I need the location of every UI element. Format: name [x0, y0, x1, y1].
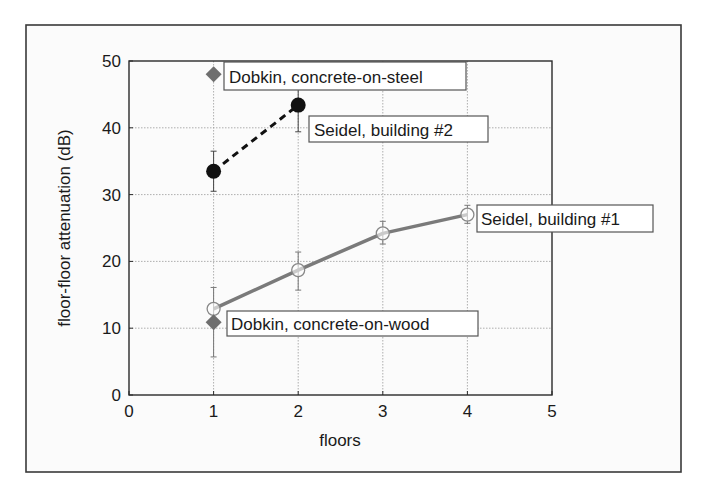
x-tick-label: 4	[463, 402, 472, 421]
y-tick-label: 0	[112, 386, 121, 405]
x-tick-label: 5	[547, 402, 556, 421]
y-tick-label: 20	[102, 252, 121, 271]
x-tick-label: 1	[209, 402, 218, 421]
y-tick-label: 10	[102, 319, 121, 338]
y-tick-label: 40	[102, 119, 121, 138]
annotation-label: Seidel, building #2	[314, 121, 453, 140]
x-axis-title: floors	[319, 431, 361, 450]
data-point	[207, 302, 220, 315]
chart: 012345 01020304050 floors floor-floor at…	[0, 0, 707, 495]
data-point	[376, 227, 389, 240]
annotation-seidel-1: Seidel, building #1	[477, 205, 653, 232]
annotation-label: Seidel, building #1	[481, 210, 620, 229]
data-point	[291, 98, 306, 113]
y-axis-title: floor-floor attenuation (dB)	[55, 129, 74, 327]
annotation-dobkin-wood: Dobkin, concrete-on-wood	[227, 311, 478, 336]
x-tick-label: 2	[293, 402, 302, 421]
data-point	[206, 164, 221, 179]
annotation-label: Dobkin, concrete-on-steel	[229, 68, 423, 87]
y-tick-label: 50	[102, 52, 121, 71]
y-tick-label: 30	[102, 186, 121, 205]
annotation-dobkin-steel: Dobkin, concrete-on-steel	[224, 62, 466, 90]
annotation-label: Dobkin, concrete-on-wood	[231, 315, 429, 334]
x-tick-label: 3	[378, 402, 387, 421]
annotation-seidel-2: Seidel, building #2	[309, 116, 488, 142]
data-point	[292, 264, 305, 277]
x-tick-label: 0	[124, 402, 133, 421]
data-point	[461, 208, 474, 221]
